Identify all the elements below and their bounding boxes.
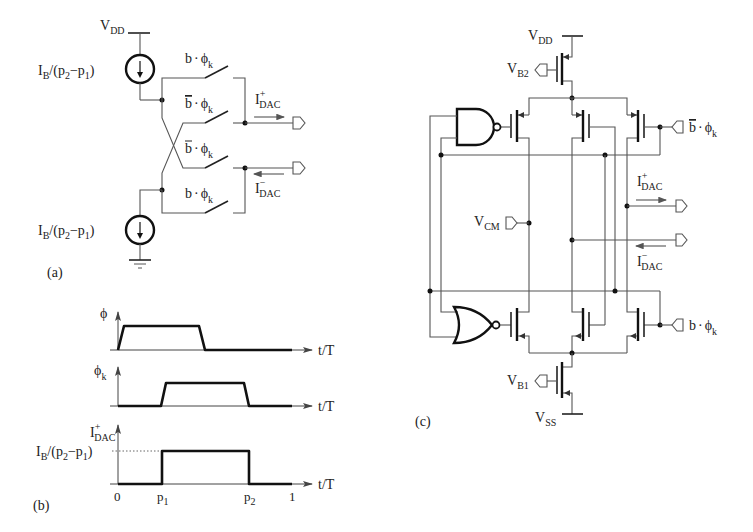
switch-4-icon [205, 168, 245, 213]
vb1-label: VB1 [507, 373, 529, 391]
t-axis-label: t/T [318, 399, 335, 414]
vdd-label: VDD [100, 18, 125, 36]
x-tick-1: 1 [289, 489, 296, 504]
nmos-right-icon [627, 308, 660, 353]
nmos-middle-icon [572, 308, 605, 353]
input-terminal-icon [672, 319, 683, 331]
pmos-right-icon [627, 110, 660, 309]
i-dac-plus-label: I+DAC [637, 170, 663, 192]
current-source-icon [126, 55, 154, 83]
phi-axis-label: ϕ [100, 306, 107, 321]
b-bar-phi-k-input-label: b·ϕk [689, 120, 717, 139]
i-dac-minus-label: I−DAC [637, 250, 663, 272]
vdd-label: VDD [528, 28, 553, 46]
x-tick-0: 0 [114, 489, 121, 504]
input-terminal-icon [672, 121, 683, 133]
node-dot [613, 289, 618, 294]
panel-a-label: (a) [47, 265, 63, 281]
pmos-middle-icon [572, 110, 615, 309]
pmos-left-icon [500, 110, 529, 309]
panel-b: ϕ t/T ϕk t/T I+DAC IB/(p2−p1) t/T 0 p1 p… [33, 306, 335, 514]
phi-k-axis-label: ϕk [94, 363, 106, 382]
nor-gate-icon [454, 307, 500, 343]
vb2-label: VB2 [507, 61, 529, 79]
i-dac-minus-label: I−DAC [255, 177, 281, 199]
input-terminal-icon [535, 375, 547, 387]
plot-i-dac: I+DAC IB/(p2−p1) t/T 0 p1 p2 1 [36, 421, 335, 507]
t-axis-label: t/T [318, 343, 335, 358]
current-source-icon [126, 216, 154, 244]
input-terminal-icon [535, 64, 547, 76]
switch-3-label: b·ϕk [185, 141, 213, 160]
nmos-tail-transistor-icon [535, 353, 572, 414]
i-dac-axis-label: I+DAC [90, 421, 116, 443]
panel-b-label: (b) [33, 498, 50, 514]
t-axis-label: t/T [318, 477, 335, 492]
b-phi-k-input-label: b·ϕk [689, 318, 717, 337]
i-dac-level-label: IB/(p2−p1) [36, 444, 93, 462]
input-terminal-icon [506, 217, 517, 229]
x-tick-p1: p1 [157, 489, 169, 507]
switch-1-label: b·ϕk [185, 51, 213, 70]
output-terminal-icon [676, 234, 687, 246]
plot-phi-k: ϕk t/T [94, 363, 335, 414]
x-tick-p2: p2 [244, 489, 256, 507]
i-dac-plus-label: I+DAC [255, 88, 281, 110]
output-terminal-icon [293, 117, 305, 129]
node-dot [439, 153, 444, 158]
plot-phi: ϕ t/T [100, 306, 335, 358]
current-source-top-label: IB/(p2−p1) [38, 63, 95, 81]
panel-c-label: (c) [415, 414, 431, 430]
panel-c: VDD VB2 [415, 28, 717, 430]
switch-2-label: b·ϕk [185, 96, 213, 115]
switch-4-label: b·ϕk [185, 186, 213, 205]
current-source-bottom-label: IB/(p2−p1) [38, 223, 95, 241]
output-terminal-icon [293, 162, 305, 174]
nmos-left-icon [500, 308, 529, 353]
panel-a: VDD IB/(p2−p1) [38, 18, 305, 281]
ground-icon [129, 260, 151, 268]
node-dot [428, 289, 433, 294]
vss-label: VSS [535, 410, 556, 428]
figure-canvas: VDD IB/(p2−p1) [0, 0, 753, 532]
vcm-label: VCM [474, 214, 500, 232]
output-terminal-icon [676, 200, 687, 212]
